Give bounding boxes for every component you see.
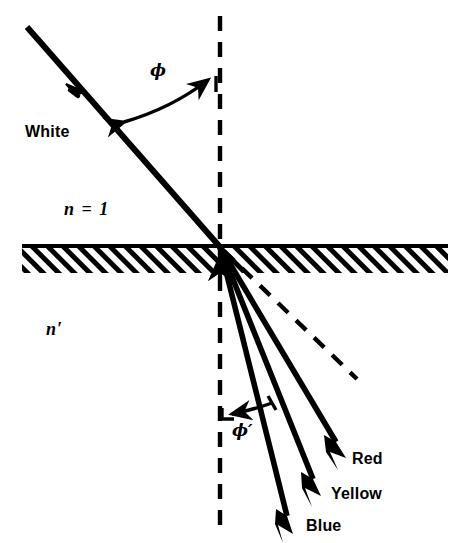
angle-arc-phi xyxy=(124,80,208,122)
label-ray-blue: Blue xyxy=(306,518,341,534)
diagram-canvas xyxy=(0,0,460,543)
angle-arc-phi-prime xyxy=(232,403,272,414)
label-refractive-index-lower: n′ xyxy=(46,320,63,338)
refraction-diagram: White n = 1 n′ ϕ ϕ′ Red Yellow Blue xyxy=(0,0,460,543)
label-white-beam: White xyxy=(25,124,70,140)
label-ray-yellow: Yellow xyxy=(331,486,382,502)
refracted-ray-blue-arrowhead xyxy=(275,509,293,543)
label-ray-red: Red xyxy=(352,451,383,467)
label-angle-of-incidence: ϕ xyxy=(150,62,166,79)
refracted-ray-blue-line xyxy=(220,247,287,516)
label-angle-of-refraction: ϕ′ xyxy=(232,422,253,439)
label-refractive-index-upper: n = 1 xyxy=(64,200,110,218)
refracted-ray-yellow xyxy=(220,247,321,507)
